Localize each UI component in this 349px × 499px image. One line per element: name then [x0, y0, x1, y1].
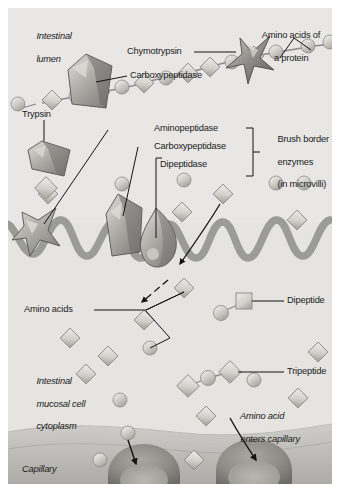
- brush-border-line-2: enzymes: [277, 157, 313, 167]
- callout-carboxypeptidase-lumen: Carboxypeptidase: [130, 70, 202, 81]
- region-label-mucosal-cytoplasm: Intestinal mucosal cell cytoplasm: [22, 365, 85, 443]
- amino-acids-protein-line-2: a protein: [274, 53, 309, 63]
- callout-brush-border-enzymes: Brush border enzymes (in microvilli): [263, 123, 329, 201]
- diagram-canvas: Intestinal lumen Chymotrypsin Carboxypep…: [8, 8, 332, 484]
- amino-acid-enters-line-2: enters capillary: [240, 434, 300, 444]
- cytoplasm-line-2: mucosal cell: [36, 399, 85, 409]
- callout-aminopeptidase: Aminopeptidase: [154, 123, 218, 134]
- cytoplasm-line-1: Intestinal: [36, 376, 71, 386]
- brush-border-line-3: (in microvilli): [277, 179, 326, 189]
- region-label-intestinal-lumen: Intestinal lumen: [22, 20, 72, 76]
- lumen-line-1: Intestinal: [36, 31, 71, 41]
- callout-tripeptide: Tripeptide: [287, 366, 326, 377]
- callout-amino-acid-enters-capillary: Amino acid enters capillary: [226, 400, 300, 456]
- amino-acid-enters-line-1: Amino acid: [240, 411, 284, 421]
- callout-amino-acids-of-a-protein: Amino acids of a protein: [241, 19, 327, 75]
- brush-border-line-1: Brush border: [277, 134, 329, 144]
- callout-trypsin: Trypsin: [22, 109, 51, 120]
- callout-dipeptidase: Dipeptidase: [160, 159, 207, 170]
- lumen-line-2: lumen: [36, 54, 60, 64]
- cytoplasm-line-3: cytoplasm: [36, 421, 76, 431]
- callout-amino-acids: Amino acids: [24, 304, 73, 315]
- amino-acids-protein-line-1: Amino acids of: [262, 30, 320, 40]
- diagram-page: Intestinal lumen Chymotrypsin Carboxypep…: [0, 0, 349, 499]
- callout-dipeptide: Dipeptide: [287, 295, 325, 306]
- region-label-capillary: Capillary: [22, 464, 57, 475]
- callout-carboxypeptidase-brush: Carboxypeptidase: [154, 141, 226, 152]
- callout-chymotrypsin: Chymotrypsin: [127, 46, 182, 57]
